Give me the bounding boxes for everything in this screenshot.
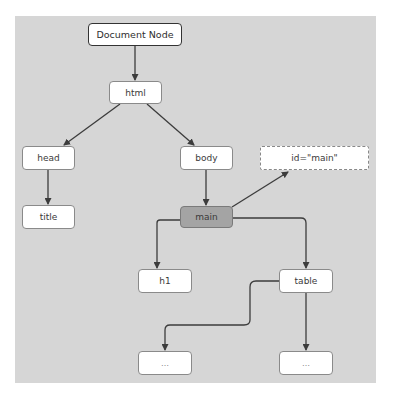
node-ellipsis-right-label: …	[302, 359, 310, 368]
node-head[interactable]: head	[22, 146, 75, 170]
node-html[interactable]: html	[109, 81, 162, 104]
edge-main-h1	[157, 220, 180, 268]
node-ellipsis-right[interactable]: …	[279, 351, 333, 375]
edge-html-head	[64, 104, 120, 145]
edge-main-table	[233, 218, 306, 268]
node-title[interactable]: title	[22, 205, 75, 229]
node-ellipsis-left-label: …	[161, 359, 169, 368]
node-id-attribute[interactable]: id="main"	[260, 146, 369, 170]
node-head-label: head	[37, 153, 59, 163]
node-document-label: Document Node	[96, 29, 173, 40]
node-table[interactable]: table	[279, 269, 333, 293]
node-h1[interactable]: h1	[138, 269, 192, 293]
edge-html-body	[147, 104, 194, 145]
node-id-attribute-label: id="main"	[291, 153, 338, 163]
node-main[interactable]: main	[180, 206, 233, 228]
node-title-label: title	[40, 212, 58, 222]
node-h1-label: h1	[159, 276, 170, 286]
node-body-label: body	[195, 153, 217, 163]
node-html-label: html	[125, 88, 146, 98]
node-body[interactable]: body	[180, 146, 233, 170]
node-document[interactable]: Document Node	[88, 23, 182, 46]
node-main-label: main	[195, 212, 218, 222]
node-ellipsis-left[interactable]: …	[138, 351, 192, 375]
node-table-label: table	[295, 276, 318, 286]
tree-edges	[0, 0, 393, 393]
edge-main-id	[232, 172, 288, 207]
